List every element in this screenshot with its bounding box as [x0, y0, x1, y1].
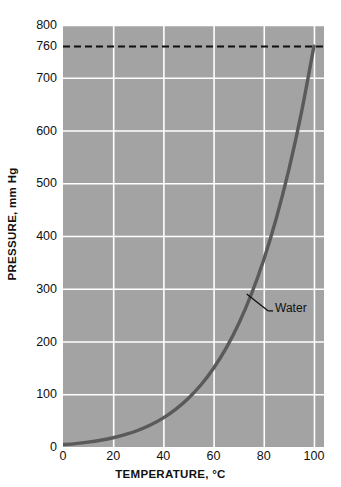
- x-tick-label: 40: [156, 450, 170, 463]
- x-tick-label: 0: [60, 450, 67, 463]
- y-axis-title-text: PRESSURE, mm Hg: [6, 167, 18, 280]
- y-tick-label: 500: [36, 177, 57, 190]
- data-curves: [63, 46, 314, 444]
- y-tick-label-760: 760: [36, 40, 57, 53]
- y-tick-label: 700: [36, 72, 57, 85]
- x-axis-title: TEMPERATURE, °C: [0, 468, 341, 480]
- x-tick-label: 60: [207, 450, 221, 463]
- chart-figure: PRESSURE, mm Hg 010020030040050060070080…: [0, 0, 341, 487]
- y-tick-label: 800: [36, 19, 57, 32]
- x-tick-label: 20: [106, 450, 120, 463]
- annotations: Water: [247, 294, 307, 315]
- y-tick-label: 300: [36, 283, 57, 296]
- plot-canvas: Water: [63, 25, 324, 447]
- y-axis-title: PRESSURE, mm Hg: [0, 0, 24, 447]
- curve-water: [63, 46, 314, 444]
- annotation-label-water: Water: [275, 301, 307, 315]
- y-axis-tick-labels: 0100200300400500600700800760: [24, 0, 61, 487]
- gridlines: [63, 25, 324, 447]
- y-tick-label: 100: [36, 388, 57, 401]
- y-tick-label: 600: [36, 124, 57, 137]
- x-axis-tick-labels: 020406080100: [0, 450, 341, 470]
- y-tick-label: 400: [36, 230, 57, 243]
- x-tick-label: 80: [257, 450, 271, 463]
- y-tick-label: 200: [36, 335, 57, 348]
- x-tick-label: 100: [304, 450, 325, 463]
- plot-area: Water: [63, 25, 324, 447]
